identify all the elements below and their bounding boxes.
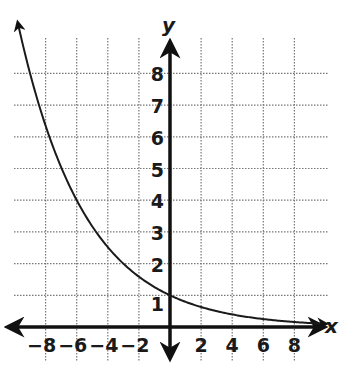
exponential-graph: −8−6−4−2246812345678 x y [0,0,344,370]
x-tick-label: 4 [226,334,239,356]
x-tick-label: −8 [27,334,56,356]
x-tick-label: −2 [120,334,149,356]
y-axis-label: y [162,13,176,37]
y-tick-label: 4 [151,190,164,212]
x-tick-label: 8 [288,334,301,356]
tick-labels: −8−6−4−2246812345678 [27,63,301,356]
x-axis-label: x [324,314,339,338]
y-tick-label: 2 [151,254,164,276]
y-tick-label: 5 [151,159,164,181]
x-tick-label: 2 [194,334,207,356]
x-tick-label: −6 [58,334,87,356]
x-tick-label: −4 [89,334,118,356]
x-tick-label: 6 [257,334,270,356]
y-tick-label: 6 [151,127,164,149]
y-tick-label: 3 [151,222,164,244]
y-tick-label: 1 [151,293,164,315]
y-tick-label: 8 [151,63,164,85]
y-tick-label: 7 [151,95,164,117]
